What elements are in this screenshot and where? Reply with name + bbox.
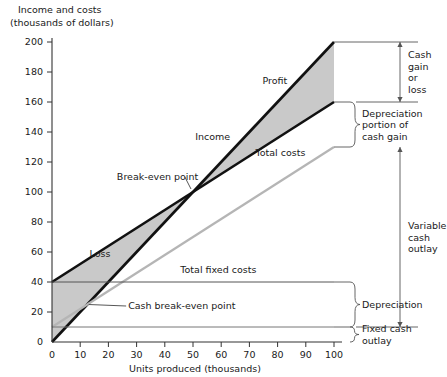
y-tick-label: 80 (31, 216, 43, 227)
x-tick-label: 100 (325, 349, 343, 360)
cash-gain-or-loss-line: Cash (408, 49, 431, 60)
y-tick-label: 100 (25, 186, 43, 197)
depreciation-portion-of-cash-gain-line: portion of (362, 119, 409, 130)
x-tick-label: 30 (131, 349, 143, 360)
x-tick-label: 60 (215, 349, 227, 360)
total-fixed-costs-label: Total fixed costs (179, 264, 256, 275)
income-label: Income (195, 131, 230, 142)
x-tick-label: 50 (187, 349, 199, 360)
y-tick-label: 60 (31, 246, 43, 257)
variable-cash-outlay-line: Variable (408, 220, 447, 231)
y-tick-label: 0 (37, 336, 43, 347)
x-tick-label: 0 (49, 349, 55, 360)
x-tick-label: 40 (159, 349, 171, 360)
fixed-cash-outlay-line: Fixed cash (362, 323, 412, 334)
break-even-chart: 0204060801001201401601802000102030405060… (0, 0, 447, 377)
y-tick-label: 40 (31, 276, 43, 287)
depreciation-portion-of-cash-gain-line: cash gain (362, 131, 408, 142)
profit-label: Profit (262, 75, 287, 86)
x-tick-label: 10 (74, 349, 86, 360)
y-tick-label: 160 (25, 96, 43, 107)
y-tick-label: 120 (25, 156, 43, 167)
y-tick-label: 180 (25, 66, 43, 77)
y-axis-title-line2: (thousands of dollars) (10, 17, 114, 28)
x-tick-label: 90 (300, 349, 312, 360)
y-tick-label: 140 (25, 126, 43, 137)
x-axis-title: Units produced (thousands) (129, 363, 261, 374)
y-axis-title-line1: Income and costs (18, 4, 102, 15)
y-tick-label: 20 (31, 306, 43, 317)
x-tick-label: 20 (102, 349, 114, 360)
cash-break-even-point-label: Cash break-even point (128, 300, 236, 311)
x-tick-label: 70 (243, 349, 255, 360)
x-tick-label: 80 (272, 349, 284, 360)
cash-gain-or-loss-line: or (408, 72, 418, 83)
depreciation-portion-of-cash-gain-line: Depreciation (362, 108, 423, 119)
total-costs-label: Total costs (254, 147, 305, 158)
fixed-cash-outlay-line: outlay (362, 335, 392, 346)
cash-gain-or-loss-line: gain (408, 61, 429, 72)
y-tick-label: 200 (25, 36, 43, 47)
chart-root: 0204060801001201401601802000102030405060… (0, 0, 447, 377)
cash-gain-or-loss-line: loss (408, 84, 426, 95)
loss-label: Loss (90, 248, 111, 259)
variable-cash-outlay-line: outlay (408, 243, 438, 254)
depreciation-line: Depreciation (362, 299, 423, 310)
variable-cash-outlay-line: cash (408, 232, 430, 243)
